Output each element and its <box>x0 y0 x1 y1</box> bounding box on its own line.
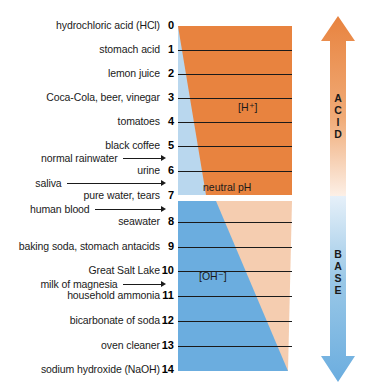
pointer-arrowhead-icon <box>161 180 166 186</box>
ph-row-label: lemon juice <box>0 67 160 79</box>
ph-tick-line <box>178 171 292 172</box>
acid-arrow-label: A C I D <box>318 92 358 140</box>
neutral-ph-label: neutral pH <box>203 181 251 193</box>
ph-row-label: tomatoes <box>0 115 160 127</box>
pointer-line <box>95 209 161 210</box>
ph-row-label: seawater <box>0 215 160 227</box>
ph-row-label: urine <box>0 164 160 176</box>
ph-tick-line <box>178 271 292 272</box>
ph-row-label: baking soda, stomach antacids <box>0 240 160 252</box>
pointer-arrowhead-icon <box>161 206 166 212</box>
ph-row-label: saliva <box>35 177 61 189</box>
hydroxide-ion-label: [OH⁻] <box>199 270 227 282</box>
ph-value: 5 <box>160 139 174 151</box>
ph-row-label: sodium hydroxide (NaOH) <box>0 363 160 375</box>
acid-letter-c: C <box>318 104 358 116</box>
ph-arrow-row: saliva <box>0 177 174 189</box>
base-arrow-label: B A S E <box>318 248 358 296</box>
base-letter-a: A <box>318 260 358 272</box>
ph-row-label: black coffee <box>0 139 160 151</box>
ph-tick-line <box>178 74 292 75</box>
ph-row-label: human blood <box>30 203 90 215</box>
ph-value: 10 <box>160 264 174 276</box>
ph-tick-line <box>178 146 292 147</box>
ph-row-label: Great Salt Lake <box>0 264 160 276</box>
acid-letter-d: D <box>318 128 358 140</box>
ph-value: 2 <box>160 67 174 79</box>
ph-value: 11 <box>160 289 174 301</box>
pointer-line <box>123 158 161 159</box>
ph-value: 9 <box>160 240 174 252</box>
ph-value: 13 <box>160 339 174 351</box>
ph-value: 4 <box>160 115 174 127</box>
acid-letter-a: A <box>318 92 358 104</box>
ph-tick-line <box>178 296 292 297</box>
ph-row-label: oven cleaner <box>0 339 160 351</box>
ph-value: 3 <box>160 91 174 103</box>
hydrogen-ion-label: [H⁺] <box>238 101 257 113</box>
ph-scale-diagram: [H⁺] neutral pH [OH⁻] hydrochloric acid … <box>0 0 377 389</box>
pointer-arrowhead-icon <box>161 281 166 287</box>
ph-tick-line <box>178 222 292 223</box>
ph-tick-line <box>178 98 292 99</box>
acid-arrow: A C I D <box>318 14 358 200</box>
ph-tick-line <box>178 346 292 347</box>
base-letter-b: B <box>318 248 358 260</box>
base-arrow: B A S E <box>318 196 358 384</box>
ph-value: 0 <box>160 19 174 31</box>
base-letter-e: E <box>318 284 358 296</box>
pointer-arrowhead-icon <box>161 155 166 161</box>
pointer-line <box>123 284 161 285</box>
ph-row-label: Coca-Cola, beer, vinegar <box>0 91 160 103</box>
ph-value: 8 <box>160 215 174 227</box>
base-letter-s: S <box>318 272 358 284</box>
acid-letter-i: I <box>318 116 358 128</box>
ph-color-band <box>178 26 292 371</box>
ph-tick-line <box>178 50 292 51</box>
ph-tick-line <box>178 247 292 248</box>
ph-arrow-row: human blood <box>0 203 174 215</box>
ph-tick-line <box>178 122 292 123</box>
ph-row-label: bicarbonate of soda <box>0 314 160 326</box>
ph-value: 7 <box>160 189 174 201</box>
ph-value: 1 <box>160 43 174 55</box>
ph-value: 12 <box>160 314 174 326</box>
ph-row-label: pure water, tears <box>0 189 160 201</box>
band-acid-half <box>178 26 292 195</box>
ph-row-label: household ammonia <box>0 289 160 301</box>
ph-row-label: stomach acid <box>0 43 160 55</box>
ph-value: 6 <box>160 164 174 176</box>
ph-row-label: normal rainwater <box>41 152 118 164</box>
ph-value: 14 <box>160 363 174 375</box>
ph-row-label: hydrochloric acid (HCl) <box>0 19 160 31</box>
pointer-line <box>67 183 161 184</box>
ph-tick-line <box>178 321 292 322</box>
ph-arrow-row: normal rainwater <box>0 152 174 164</box>
